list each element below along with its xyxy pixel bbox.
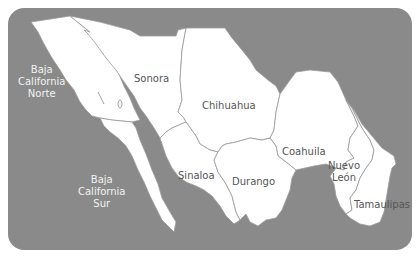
label-line: California xyxy=(78,186,126,198)
label-sinaloa: Sinaloa xyxy=(178,170,215,182)
label-tamaulipas: Tamaulipas xyxy=(354,199,410,211)
label-line: Sur xyxy=(78,198,126,210)
label-durango: Durango xyxy=(232,176,275,188)
label-baja-california-norte: Baja California Norte xyxy=(18,64,66,100)
label-baja-california-sur: Baja California Sur xyxy=(78,174,126,210)
label-line: León xyxy=(328,172,360,184)
label-line: Norte xyxy=(18,88,66,100)
label-coahuila: Coahuila xyxy=(282,146,326,158)
mexico-northern-states-map xyxy=(8,8,412,250)
label-line: Baja xyxy=(18,64,66,76)
label-line: Baja xyxy=(78,174,126,186)
label-line: Nuevo xyxy=(328,160,360,172)
map-panel: Baja California Norte Baja California Su… xyxy=(8,8,412,250)
label-chihuahua: Chihuahua xyxy=(202,100,256,112)
label-line: California xyxy=(18,76,66,88)
island-tiburon xyxy=(118,100,122,108)
label-sonora: Sonora xyxy=(134,73,169,85)
label-nuevo-leon: Nuevo León xyxy=(328,160,360,184)
